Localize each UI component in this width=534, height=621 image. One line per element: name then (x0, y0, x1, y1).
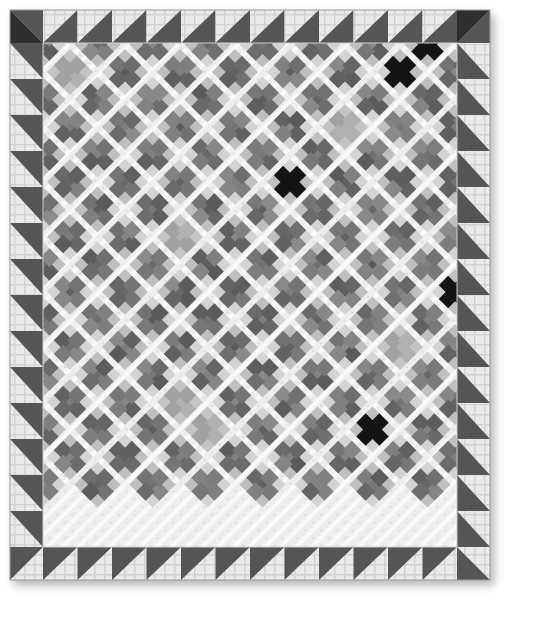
quilt-photo (0, 0, 534, 621)
quilt (10, 10, 490, 580)
